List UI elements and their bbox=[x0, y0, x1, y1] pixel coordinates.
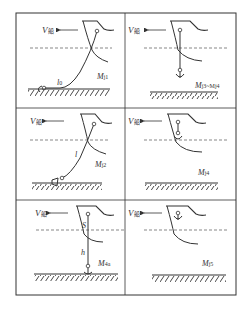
svg-text:V船: V船 bbox=[35, 208, 47, 218]
anchor-icon bbox=[84, 268, 92, 274]
panel-6: V船 Mj5 bbox=[128, 206, 228, 282]
svg-text:l: l bbox=[75, 150, 78, 159]
hull bbox=[82, 21, 114, 30]
panel-1: V船 l0 Mj1 bbox=[28, 21, 114, 96]
svg-text:V船: V船 bbox=[128, 208, 140, 218]
anchor-icon bbox=[174, 215, 182, 220]
svg-text:V船: V船 bbox=[128, 25, 140, 35]
svg-text:Mj2: Mj2 bbox=[94, 160, 106, 169]
svg-text:Mj4: Mj4 bbox=[197, 168, 209, 177]
svg-text:V船: V船 bbox=[30, 116, 42, 126]
svg-text:Mj1: Mj1 bbox=[96, 72, 108, 81]
panel-5: V船 S h M4a bbox=[34, 206, 124, 281]
svg-text:S: S bbox=[82, 221, 86, 230]
svg-text:V船: V船 bbox=[42, 25, 54, 35]
svg-text:h: h bbox=[81, 248, 85, 257]
outer-frame bbox=[16, 13, 236, 295]
panel-3: V船 l Mj2 bbox=[30, 114, 112, 190]
chain bbox=[44, 31, 97, 88]
anchor-stages-diagram: V船 l0 Mj1 V船 Mj3~Mj4 V船 bbox=[0, 0, 246, 310]
panel-2: V船 Mj3~Mj4 bbox=[128, 21, 228, 99]
svg-text:l0: l0 bbox=[57, 78, 62, 87]
svg-text:Mj5: Mj5 bbox=[201, 259, 213, 268]
anchor-icon bbox=[176, 72, 184, 78]
svg-text:M4a: M4a bbox=[97, 259, 111, 268]
svg-text:Mj3~Mj4: Mj3~Mj4 bbox=[194, 81, 220, 90]
svg-text:V船: V船 bbox=[128, 116, 140, 126]
panel-4: V船 Mj4 bbox=[128, 114, 228, 190]
